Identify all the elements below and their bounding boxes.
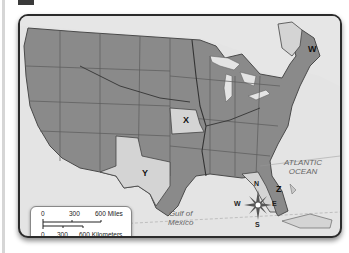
compass-w: W <box>234 200 241 207</box>
atlantic-line1: ATLANTIC <box>284 158 322 167</box>
scale-km-mid: 300 <box>57 231 68 238</box>
us-map: W X Y Z ATLANTIC OCEAN Gulf of Mexico N … <box>18 14 342 238</box>
cuba <box>282 214 332 228</box>
gulf-line2: Mexico <box>168 218 193 227</box>
page-margin-rule <box>2 0 5 253</box>
gulf-line1: Gulf of <box>168 209 193 218</box>
map-canvas <box>20 16 340 236</box>
atlantic-line2: OCEAN <box>284 167 322 176</box>
label-w: W <box>308 44 317 54</box>
map-scale: 0 300 600 Miles 0 300 600 Kilometers <box>30 206 132 238</box>
bahamas <box>290 184 296 194</box>
scale-km-zero: 0 <box>41 231 45 238</box>
label-x: X <box>183 115 189 125</box>
compass-s: S <box>255 221 260 228</box>
compass-rose: N S E W <box>238 182 278 228</box>
figure-header-marker <box>18 0 34 5</box>
atlantic-ocean-label: ATLANTIC OCEAN <box>284 158 322 176</box>
scale-km-end: 600 Kilometers <box>79 231 122 238</box>
compass-e: E <box>272 200 277 207</box>
label-y: Y <box>142 168 148 178</box>
gulf-of-mexico-label: Gulf of Mexico <box>168 209 193 227</box>
compass-n: N <box>254 180 259 187</box>
